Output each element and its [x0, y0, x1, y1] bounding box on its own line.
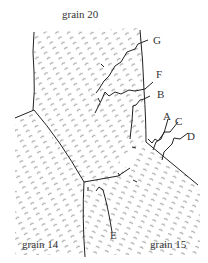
label-d: D: [187, 131, 195, 142]
label-g: G: [153, 35, 161, 46]
label-c: C: [175, 116, 182, 127]
crack-A: [148, 119, 168, 143]
label-b: B: [157, 89, 164, 100]
label-f: F: [156, 69, 162, 80]
label-a: A: [163, 111, 171, 122]
diagram-canvas: [0, 0, 208, 263]
label-grain-15: grain 15: [150, 239, 186, 250]
crack-D: [162, 133, 188, 160]
grain-boundary-diagram: grain 20 G F B A C D E grain 14 grain 15: [0, 0, 208, 263]
label-e: E: [110, 230, 117, 241]
label-grain-14: grain 14: [22, 239, 58, 250]
label-grain-20: grain 20: [62, 9, 98, 20]
